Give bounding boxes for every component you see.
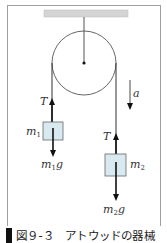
figure-caption: 図９-３ アトウッドの器械 xyxy=(6,227,155,243)
pulley-axle xyxy=(82,61,85,64)
atwood-machine-diagram: T m1 m1g T m2 m2g a xyxy=(0,0,167,243)
caption-marker xyxy=(6,228,12,243)
ceiling-support xyxy=(44,10,128,17)
caption-text: 図９-３ アトウッドの器械 xyxy=(16,227,155,243)
acceleration-label: a xyxy=(133,87,140,100)
